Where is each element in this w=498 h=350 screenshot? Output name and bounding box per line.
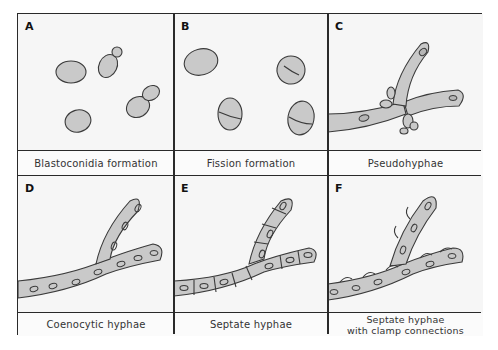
panel-e: E (174, 176, 328, 313)
caption-b: Fission formation (174, 151, 328, 176)
caption-f: Septate hyphae with clamp connections (328, 313, 483, 336)
caption-c: Pseudohyphae (328, 151, 483, 176)
caption-d: Coenocytic hyphae (18, 313, 174, 336)
fission-illustration (174, 14, 328, 151)
panel-a: A (18, 14, 174, 151)
blastoconidia-illustration (18, 14, 174, 151)
pseudohyphae-illustration (328, 14, 483, 151)
caption-e: Septate hyphae (174, 313, 328, 336)
panel-b: B (174, 14, 328, 151)
panel-c: C (328, 14, 483, 151)
caption-f-line2: with clamp connections (347, 325, 464, 336)
septate-hyphae-illustration (174, 176, 328, 313)
coenocytic-hyphae-illustration (18, 176, 174, 313)
caption-a: Blastoconidia formation (18, 151, 174, 176)
panel-f: F (328, 176, 483, 313)
divider (327, 14, 329, 334)
fungal-morphology-figure: A B (17, 13, 482, 335)
divider (173, 14, 175, 334)
panel-d: D (18, 176, 174, 313)
caption-f-line1: Septate hyphae (366, 314, 444, 325)
clamp-connection-hyphae-illustration (328, 176, 483, 313)
